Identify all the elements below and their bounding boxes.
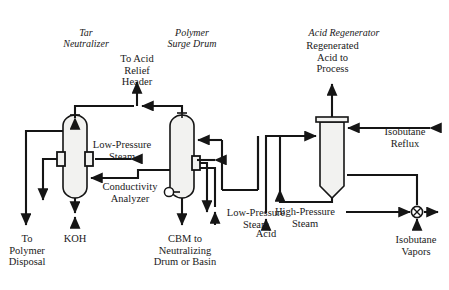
- stream-label-to-polymer-disposal: To Polymer Disposal: [4, 233, 50, 268]
- stream-label-low-pressure-steam-right: Low-Pressure Steam: [219, 207, 293, 230]
- stream-label-acid: Acid: [252, 228, 280, 240]
- stream-label-low-pressure-steam-left: Low-Pressure Steam: [85, 139, 159, 162]
- acid-regenerator-vessel: [316, 103, 348, 198]
- line-regen-bottom-out: [280, 190, 332, 202]
- stream-label-cbm-to-neutralizing-drum-or-basin: CBM to Neutralizing Drum or Basin: [140, 233, 230, 268]
- line-surge-overhead-to-header: [142, 106, 182, 113]
- line-surge-drain-a: [200, 163, 207, 212]
- stream-label-regenerated-acid-to-process: Regenerated Acid to Process: [294, 40, 371, 75]
- stream-label-koh: KOH: [55, 233, 95, 245]
- stream-label-isobutane-vapors: Isobutane Vapors: [387, 234, 445, 257]
- equipment-label-acid-regenerator: Acid Regenerator: [292, 27, 396, 38]
- process-flow-diagram: Tar Neutralizer Polymer Surge Drum Acid …: [0, 0, 449, 290]
- line-regen-side-to-valve: [347, 175, 417, 205]
- polymer-surge-drum-vessel: [164, 113, 200, 198]
- equipment-label-polymer-surge-drum: Polymer Surge Drum: [155, 27, 229, 49]
- equipment-label-tar-neutralizer: Tar Neutralizer: [50, 27, 122, 49]
- line-tar-jacket-drain: [43, 159, 57, 200]
- valve-symbol: [411, 206, 422, 217]
- stream-label-isobutane-reflux: Isobutane Reflux: [375, 126, 435, 149]
- stream-label-conductivity-analyzer: Conductivity Analyzer: [94, 181, 166, 204]
- line-surge-to-tar: [91, 170, 170, 178]
- line-tar-overhead: [75, 106, 134, 118]
- stream-label-to-acid-relief-header: To Acid Relief Header: [107, 53, 167, 88]
- line-to-polymer-disposal: [26, 131, 63, 225]
